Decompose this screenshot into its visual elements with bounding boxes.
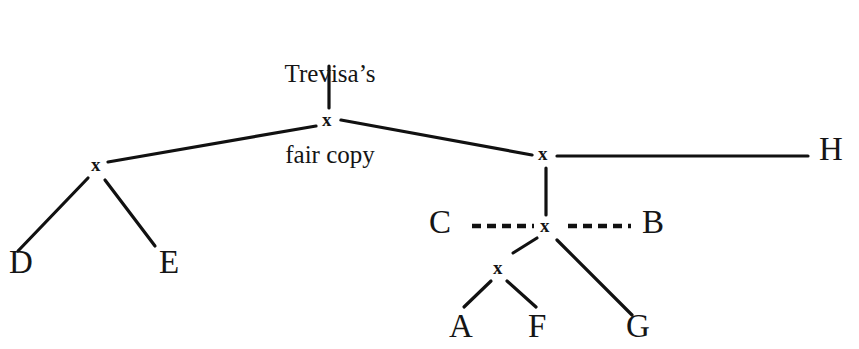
witness-label-e: E (159, 245, 179, 281)
witness-label-b: B (642, 205, 664, 241)
root-label-line2: fair copy (230, 141, 430, 168)
node-x-right-upper: x (538, 143, 548, 165)
edge-x-bottom-to-F (507, 281, 536, 307)
witness-label-f: F (528, 309, 546, 345)
witness-label-a: A (449, 309, 473, 345)
node-x-root: x (322, 109, 332, 131)
edge-x-right-lower-to-G (557, 240, 632, 315)
witness-label-c: C (429, 205, 451, 241)
edge-x-left-to-E (105, 180, 155, 246)
edge-x-bottom-to-A (464, 281, 491, 307)
edge-x-left-to-D (18, 178, 88, 251)
witness-label-d: D (9, 245, 33, 281)
node-x-right-lower: x (540, 215, 550, 237)
node-x-bottom: x (493, 257, 503, 279)
stemma-diagram: Trevisa’s fair copy xxxxx DEHCBAFG (0, 0, 859, 349)
witness-label-g: G (626, 309, 650, 345)
node-x-left: x (91, 154, 101, 176)
edge-x-right-lower-to-x-bottom (513, 238, 537, 253)
root-label-line1: Trevisa’s (230, 60, 430, 87)
witness-label-h: H (819, 132, 843, 168)
